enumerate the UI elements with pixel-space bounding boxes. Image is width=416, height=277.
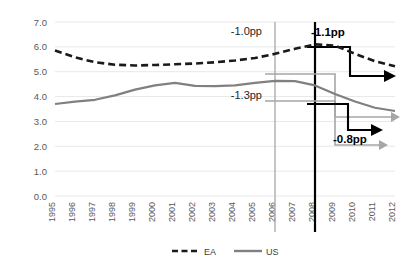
annotation-ea-2006: -1.0pp [231,25,262,37]
annotation-ea-2008: -1.1pp [311,26,345,38]
y-tick-label: 0.0 [34,191,47,202]
x-tick-label: 1995 [47,202,57,222]
x-tick-label: 2007 [287,202,297,222]
x-tick-label: 2003 [207,202,217,222]
y-tick-label: 1.0 [34,166,47,177]
x-tick-label: 2002 [187,202,197,222]
legend-label-us: US [266,247,279,257]
x-tick-label: 2011 [367,202,377,221]
y-tick-label: 2.0 [34,141,47,152]
y-tick-label: 4.0 [34,91,47,102]
annotation-us-2008: -0.8pp [333,133,367,145]
line-chart: 0.01.02.03.04.05.06.07.0 199519961997199… [0,0,416,277]
x-tick-label: 2005 [247,202,257,222]
y-tick-label: 5.0 [34,66,47,77]
x-tick-label: 2004 [227,202,237,222]
x-tick-label: 2010 [347,202,357,222]
x-tick-label: 2000 [147,202,157,222]
y-tick-label: 3.0 [34,116,47,127]
x-tick-label: 2009 [327,202,337,222]
annotation-us-2006: -1.3pp [231,89,262,101]
y-tick-label: 7.0 [34,17,47,28]
x-tick-label: 1996 [67,202,77,222]
x-tick-label: 1999 [127,202,137,222]
legend-label-ea: EA [204,247,216,257]
y-tick-label: 6.0 [34,41,47,52]
x-tick-label: 2001 [167,202,177,222]
x-tick-label: 2012 [387,202,397,222]
x-tick-label: 1998 [107,202,117,222]
chart-container: 0.01.02.03.04.05.06.07.0 199519961997199… [0,0,416,277]
x-tick-label: 1997 [87,202,97,222]
